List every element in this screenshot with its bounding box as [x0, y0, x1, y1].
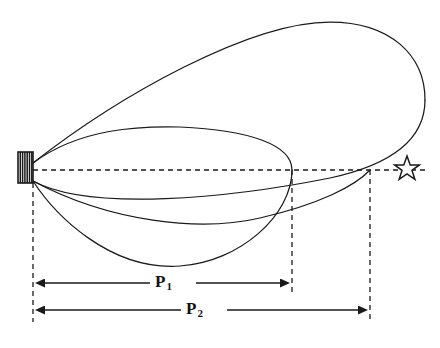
diagram-canvas	[0, 0, 440, 348]
p2-dimension-label: P2	[186, 299, 202, 319]
trajectory-curves	[33, 22, 425, 266]
outer-loop-upper-curve	[33, 22, 425, 163]
p1-dimension-label: P1	[155, 272, 171, 292]
target-star-icon	[395, 156, 420, 179]
p1-label-subscript: 1	[166, 280, 172, 292]
p2-label-base: P	[186, 299, 196, 318]
reference-lines	[33, 170, 425, 322]
hatched-origin-block	[18, 152, 33, 183]
outer-loop-lower-curve	[33, 100, 425, 199]
p2-label-subscript: 2	[197, 307, 203, 319]
inner-loop-lower-curve	[33, 170, 292, 266]
trajectory-diagram: P1 P2	[0, 0, 440, 348]
star-outline	[395, 156, 420, 179]
p1-label-base: P	[155, 272, 165, 291]
inner-loop-upper-curve	[33, 127, 292, 170]
